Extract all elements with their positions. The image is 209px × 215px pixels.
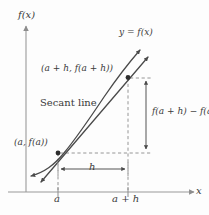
point-a-fa xyxy=(56,151,61,156)
run-measure-label: h xyxy=(89,162,95,172)
x-axis-label: x xyxy=(196,186,202,196)
lower-point-label: (a, f(a)) xyxy=(14,138,48,147)
x-tick-label-a: a xyxy=(54,194,60,204)
x-tick-label-a-plus-h: a + h xyxy=(112,194,139,204)
y-axis-label: f(x) xyxy=(18,10,35,20)
rise-measure-label: f(a + h) − f(a) xyxy=(152,107,209,116)
curve-label: y = f(x) xyxy=(119,28,153,37)
secant-line-label: Secant line xyxy=(40,98,97,108)
secant-line-figure: f(x) x y = f(x) (a + h, f(a + h)) Secant… xyxy=(0,0,209,215)
point-ah-fah xyxy=(126,75,131,80)
upper-point-label: (a + h, f(a + h)) xyxy=(41,64,113,73)
